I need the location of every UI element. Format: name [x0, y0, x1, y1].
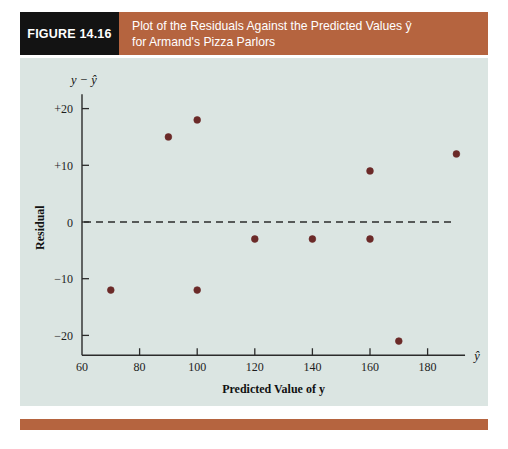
figure-caption-line-2: for Armand's Pizza Parlors [132, 34, 480, 50]
x-tick-label: 80 [134, 360, 146, 374]
x-tick-label: 60 [76, 360, 88, 374]
plot-panel: +20+100−10−206080100120140160180y − ŷŷRe… [20, 58, 488, 406]
x-tick-label: 100 [188, 360, 206, 374]
data-point [251, 236, 258, 243]
figure-caption-block: Plot of the Residuals Against the Predic… [119, 12, 488, 55]
data-point [367, 168, 374, 175]
x-axis-title: Predicted Value of y [222, 382, 325, 396]
data-point [367, 236, 374, 243]
residual-scatter-plot: +20+100−10−206080100120140160180y − ŷŷRe… [20, 58, 488, 406]
plot-label-layer: +20+100−10−206080100120140160180y − ŷŷRe… [33, 73, 480, 396]
figure-number-label: FIGURE 14.16 [27, 27, 111, 41]
figure-caption-line-1: Plot of the Residuals Against the Predic… [132, 18, 480, 34]
x-axis-symbol: ŷ [472, 349, 480, 363]
plot-axes [82, 94, 465, 355]
bottom-accent-bar [20, 419, 488, 430]
y-tick-label: −20 [54, 329, 73, 343]
data-point [107, 287, 114, 294]
data-point [194, 287, 201, 294]
y-tick-label: −10 [54, 272, 73, 286]
figure-header-banner: FIGURE 14.16 Plot of the Residuals Again… [20, 12, 488, 55]
x-tick-label: 120 [246, 360, 264, 374]
y-tick-label: +20 [54, 102, 73, 116]
x-tick-label: 140 [303, 360, 321, 374]
figure-number-block: FIGURE 14.16 [20, 12, 119, 55]
data-point [165, 134, 172, 141]
data-point [194, 117, 201, 124]
y-axis-symbol: y − ŷ [69, 73, 97, 87]
data-point-layer [107, 117, 459, 345]
x-tick-label: 160 [361, 360, 379, 374]
x-tick-label: 180 [419, 360, 437, 374]
y-tick-label: +10 [54, 159, 73, 173]
y-tick-label: 0 [67, 216, 73, 230]
data-point [395, 338, 402, 345]
data-point [453, 151, 460, 158]
data-point [309, 236, 316, 243]
figure-root: FIGURE 14.16 Plot of the Residuals Again… [0, 0, 508, 449]
y-axis-title: Residual [33, 205, 47, 250]
